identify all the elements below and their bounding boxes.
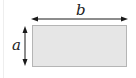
height-arrow — [23, 26, 28, 66]
rectangle — [33, 26, 127, 67]
height-label: a — [12, 38, 21, 53]
width-label: b — [76, 3, 86, 18]
